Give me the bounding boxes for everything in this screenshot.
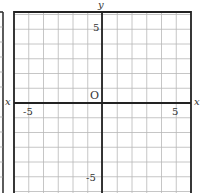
x-tick-label-5: 5	[172, 107, 178, 117]
y-tick-label-neg5: -5	[86, 173, 96, 183]
coordinate-plane: y x x O 5 -5 -5 5	[0, 0, 203, 193]
x-axis-label-left: x	[5, 97, 11, 107]
grid-svg	[0, 0, 203, 193]
x-axis-label-right: x	[194, 97, 200, 107]
origin-label: O	[90, 90, 99, 101]
y-tick-label-5: 5	[93, 23, 99, 33]
x-tick-label-neg5: -5	[23, 107, 33, 117]
y-axis-label: y	[98, 0, 104, 10]
axes	[14, 12, 191, 193]
adjacent-figure-edge	[0, 12, 3, 193]
